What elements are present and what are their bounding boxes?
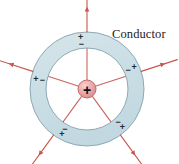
field-line-up-arrowhead [85,7,90,12]
field-line-upper-left-exterior [0,60,33,72]
field-line-upper-right-arrowhead [160,63,165,68]
field-line-upper-left-minus-sign: − [40,75,45,85]
field-line-upper-left-plus-sign: + [33,74,38,84]
field-line-upper-right-plus-sign: + [131,62,136,72]
field-line-lower-right-arrowhead [131,150,136,155]
point-charge-plus-icon: + [83,82,91,98]
figure-canvas: −+−+−+−+−+ + Conductor [0,0,179,164]
field-line-lower-left-exterior [31,135,53,164]
field-line-upper-left-inner [48,76,78,86]
physics-figure-conductor-shell: −+−+−+−+−+ + Conductor [0,0,179,164]
field-line-lower-right-plus-sign: + [120,122,125,132]
field-line-up-plus-sign: + [78,32,83,42]
field-line-lower-left-inner [63,97,82,122]
conductor-label: Conductor [112,27,166,41]
field-line-lower-left-arrowhead [39,150,44,155]
field-line-upper-left-arrowhead [9,63,14,68]
field-line-upper-right-exterior [141,60,177,72]
field-line-lower-left-plus-sign: + [59,129,64,139]
point-charge: + [78,80,96,98]
field-line-lower-right-exterior [121,135,143,164]
field-line-upper-right-minus-sign: − [126,65,131,75]
field-line-upper-right-inner [96,76,126,86]
field-line-lower-right-inner [93,97,112,122]
